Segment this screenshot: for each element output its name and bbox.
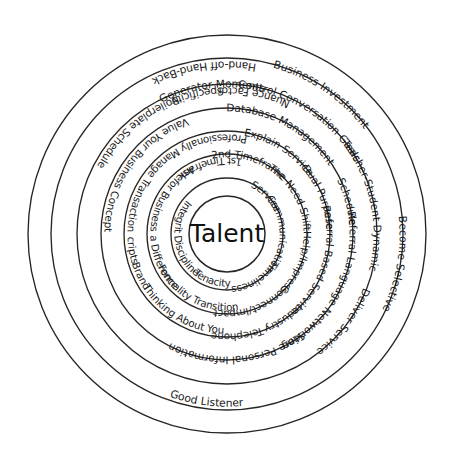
diagram-canvas: ServiceCommunicationTimelinessTenacityDi… (0, 0, 453, 475)
ring-2-label: 1st Timeframe (174, 155, 243, 184)
ring-3-label: Industry (263, 302, 306, 336)
talent-ring-diagram: ServiceCommunicationTimelinessTenacityDi… (0, 0, 453, 475)
ring-6-label: Become Selective (379, 215, 409, 314)
ring-6-label: Good Listener (169, 387, 245, 409)
center-label: Talent (189, 219, 265, 248)
center-node: Talent (189, 196, 265, 272)
